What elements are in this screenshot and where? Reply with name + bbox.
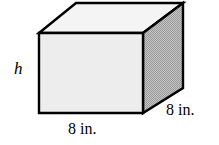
height-dimension-label: h xyxy=(14,60,23,77)
rectangular-prism-illustration xyxy=(0,0,219,145)
depth-dimension-label: 8 in. xyxy=(166,102,194,118)
width-dimension-label: 8 in. xyxy=(68,121,96,137)
geometry-figure: h 8 in. 8 in. xyxy=(0,0,219,145)
prism-front-face xyxy=(39,33,143,113)
